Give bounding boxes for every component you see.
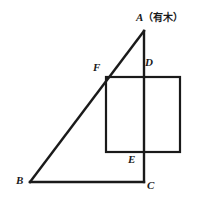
vertex-label-a-annotation: （有木）: [143, 12, 183, 23]
vertex-label-a: A（有木）: [136, 12, 183, 23]
geometry-canvas: [0, 0, 197, 201]
vertex-label-b: B: [16, 175, 23, 186]
vertex-label-e: E: [128, 154, 135, 165]
vertex-label-c: C: [147, 180, 154, 191]
geometry-figure: —————— A（有木） B C D E F: [0, 0, 197, 201]
vertex-label-d: D: [145, 57, 153, 68]
canvas-background: [0, 0, 197, 201]
vertex-label-f: F: [93, 62, 100, 73]
